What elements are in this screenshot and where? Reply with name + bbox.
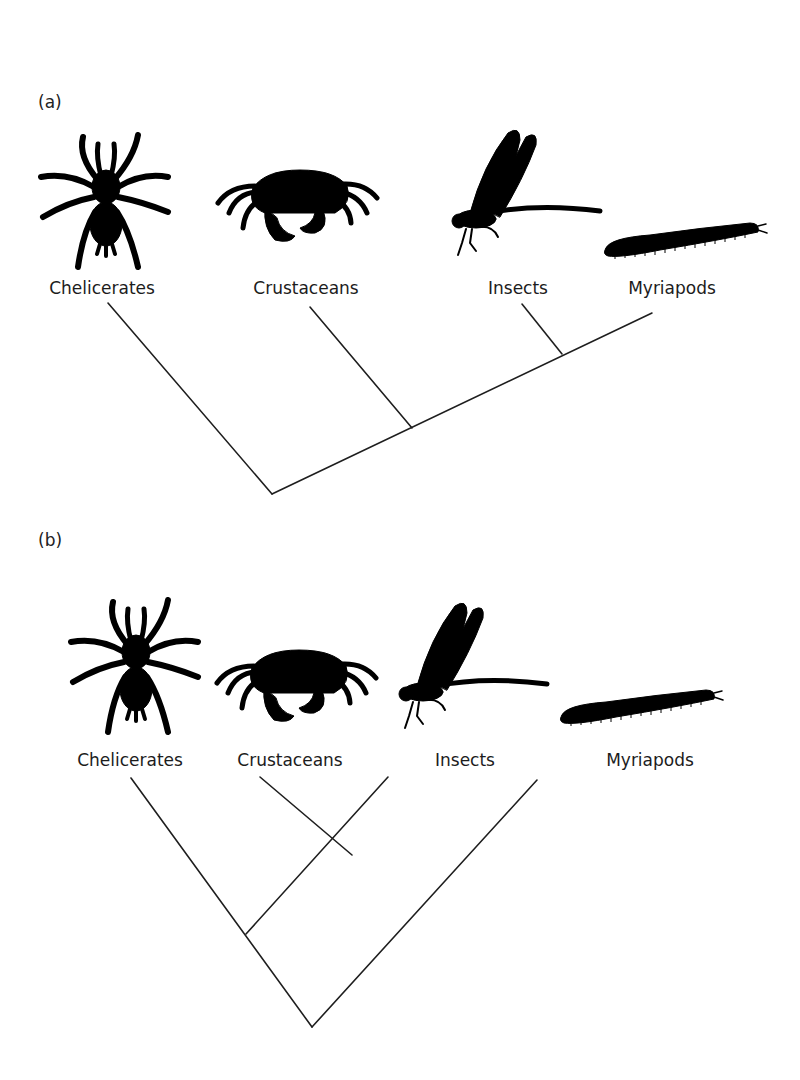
- branch-myriapods: [312, 780, 537, 1027]
- phylogenetic-trees: [0, 0, 800, 1080]
- branch-crustaceans: [310, 307, 412, 428]
- branch-crustaceans: [260, 777, 352, 855]
- branch-insects: [522, 304, 562, 354]
- tree-b: [131, 777, 537, 1027]
- branch-chelicerates: [131, 778, 312, 1027]
- tree-a: [108, 303, 652, 494]
- branch-to-insects: [246, 777, 388, 934]
- branch-main-to-myriapods: [272, 313, 652, 494]
- branch-chelicerates: [108, 303, 272, 494]
